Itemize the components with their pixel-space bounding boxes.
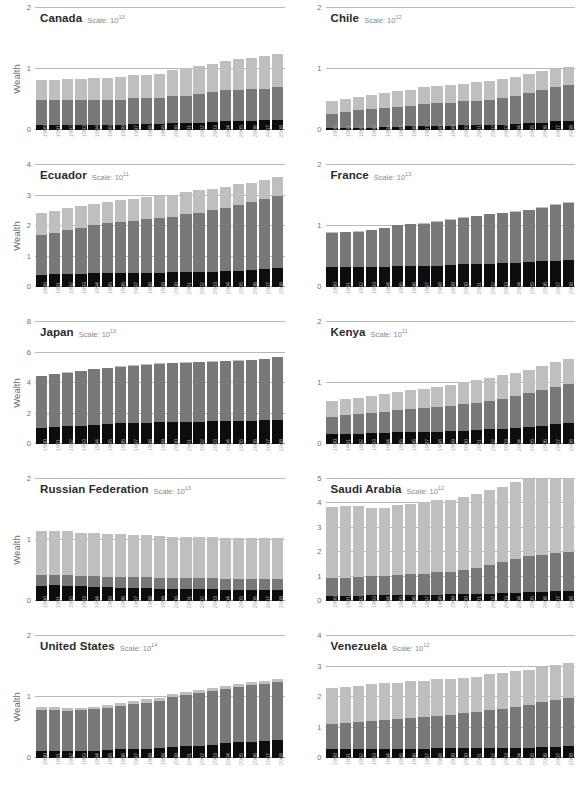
stacked-bar (88, 8, 99, 130)
x-tick-label: 1992 (358, 125, 364, 137)
x-tick: 1998 (431, 287, 444, 314)
stacked-bar (484, 322, 495, 444)
bar-segment (418, 389, 429, 409)
stacked-bar (233, 165, 244, 287)
x-tick: 2006 (536, 601, 549, 628)
stacked-bar (523, 322, 534, 444)
x-tick-label: 1996 (411, 596, 417, 608)
stacked-bar (75, 8, 86, 130)
bar-segment (379, 93, 390, 108)
bar-segment (536, 702, 547, 747)
stacked-bar (497, 479, 508, 601)
x-tick-label: 2005 (529, 596, 535, 608)
bar-segment (102, 100, 113, 125)
bar-segment (563, 85, 574, 121)
x-tick-label: 2008 (568, 753, 574, 765)
stacked-bar (180, 8, 191, 130)
bar-segment (207, 64, 218, 93)
x-tick: 1995 (391, 287, 404, 314)
bar-segment (340, 415, 351, 433)
stacked-bar (340, 165, 351, 287)
bar-segment (458, 404, 469, 430)
x-tick: 1993 (74, 444, 87, 471)
x-tick: 2001 (470, 444, 483, 471)
bar-segment (259, 199, 270, 269)
stacked-bar (431, 636, 442, 758)
x-tick: 2004 (509, 601, 522, 628)
y-tick-label: 0 (317, 439, 321, 448)
stacked-bar (536, 479, 547, 601)
bar-segment (523, 74, 534, 94)
bar-segment (193, 213, 204, 272)
x-tick-label: 1992 (358, 439, 364, 451)
x-tick-label: 2001 (476, 753, 482, 765)
stacked-bar (167, 165, 178, 287)
bar-segment (353, 506, 364, 577)
x-tick-label: 1992 (358, 753, 364, 765)
x-tick-label: 1995 (107, 753, 113, 765)
stacked-bar (180, 322, 191, 444)
stacked-bar (259, 322, 270, 444)
x-tick-label: 2004 (225, 596, 231, 608)
stacked-bar (193, 322, 204, 444)
x-tick: 1992 (61, 287, 74, 314)
stacked-bar (405, 479, 416, 601)
x-tick: 2004 (509, 758, 522, 785)
x-tick: 2004 (219, 758, 232, 785)
bar-segment (154, 536, 165, 578)
stacked-bar (536, 322, 547, 444)
bar-segment (88, 576, 99, 587)
x-tick-label: 1992 (68, 753, 74, 765)
x-tick: 2001 (179, 444, 192, 471)
bar-segment (49, 531, 60, 575)
y-tick-label: 2 (27, 474, 31, 483)
stacked-bar (259, 479, 270, 601)
y-tick-label: 2 (317, 160, 321, 169)
bar-segment (88, 78, 99, 99)
x-tick-label: 1990 (332, 596, 338, 608)
bar-segment (36, 235, 47, 274)
x-tick: 2006 (536, 444, 549, 471)
bar-segment (246, 538, 257, 579)
x-tick-label: 2003 (212, 282, 218, 294)
bar-segment (471, 403, 482, 430)
bar-segment (259, 684, 270, 741)
bar-segment (340, 399, 351, 415)
x-tick-label: 1998 (437, 439, 443, 451)
x-tick: 2007 (549, 444, 562, 471)
bar-segment (523, 705, 534, 748)
stacked-bar (193, 636, 204, 758)
bar-segment (259, 579, 270, 590)
bar-segment (49, 710, 60, 751)
bar-segment (431, 103, 442, 126)
bar-segment (141, 703, 152, 749)
bar-segment (379, 508, 390, 576)
x-tick-label: 1990 (332, 125, 338, 137)
bar-segment (471, 568, 482, 594)
bar-segment (62, 208, 73, 229)
x-tick: 1993 (365, 601, 378, 628)
x-tick-label: 2007 (265, 125, 271, 137)
bar-segment (536, 90, 547, 122)
bar-segment (458, 101, 469, 125)
x-tick-label: 2002 (490, 596, 496, 608)
stacked-bar (418, 165, 429, 287)
plot-area: 01234 (35, 165, 285, 287)
bar-segment (353, 398, 364, 414)
bar-segment (207, 210, 218, 272)
stacked-bar (392, 322, 403, 444)
x-tick-label: 2000 (463, 282, 469, 294)
stacked-bar (379, 322, 390, 444)
x-tick: 1992 (61, 444, 74, 471)
x-tick-label: 1996 (411, 753, 417, 765)
bar-segment (220, 90, 231, 121)
x-tick-label: 2007 (555, 282, 561, 294)
x-tick: 1990 (35, 287, 48, 314)
x-tick: 1998 (431, 444, 444, 471)
bar-segment (445, 85, 456, 103)
stacked-bar (88, 636, 99, 758)
plot-area: 012 (35, 8, 285, 130)
bar-segment (36, 710, 47, 751)
x-tick: 1998 (140, 758, 153, 785)
bar-segment (431, 500, 442, 571)
